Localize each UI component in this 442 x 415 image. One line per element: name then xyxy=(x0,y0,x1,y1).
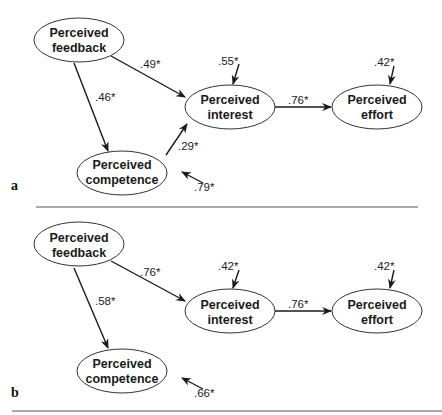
node-perceived-competence: Perceived competence xyxy=(77,151,167,195)
arrow-feedback-to-competence xyxy=(74,268,108,348)
node-perceived-effort: Perceived effort xyxy=(332,289,422,333)
coef-feedback-interest: .76* xyxy=(140,266,161,278)
node-label: Perceived xyxy=(92,357,151,371)
node-label: Perceived xyxy=(347,298,406,312)
node-label: effort xyxy=(361,108,394,122)
residual-interest: .42* xyxy=(218,260,239,272)
node-label: competence xyxy=(86,173,159,187)
residual-competence: .79* xyxy=(194,181,215,193)
residual-arrow-effort xyxy=(390,270,394,288)
node-label: Perceived xyxy=(49,231,108,245)
node-perceived-feedback: Perceived feedback xyxy=(34,18,124,62)
node-label: interest xyxy=(207,108,253,122)
node-label: Perceived xyxy=(200,93,259,107)
residual-arrow-effort xyxy=(390,66,394,84)
residual-effort: .42* xyxy=(374,260,395,272)
panel-a: Perceived feedback Perceived interest Pe… xyxy=(11,18,422,195)
node-perceived-effort: Perceived effort xyxy=(332,85,422,129)
node-label: Perceived xyxy=(49,26,108,40)
node-label: competence xyxy=(86,372,159,386)
coef-feedback-competence: .46* xyxy=(95,91,116,103)
node-perceived-interest: Perceived interest xyxy=(185,85,275,129)
coef-competence-interest: .29* xyxy=(178,140,199,152)
coef-interest-effort: .76* xyxy=(288,94,309,106)
arrow-feedback-to-competence xyxy=(74,63,108,151)
node-label: effort xyxy=(361,313,394,327)
path-diagram-figure: Perceived feedback Perceived interest Pe… xyxy=(0,0,442,415)
panel-label-a: a xyxy=(11,178,18,193)
coef-feedback-competence: .58* xyxy=(95,295,116,307)
residual-interest: .55* xyxy=(218,55,239,67)
coef-interest-effort: .76* xyxy=(288,298,309,310)
panel-b: Perceived feedback Perceived interest Pe… xyxy=(11,222,422,400)
node-perceived-feedback: Perceived feedback xyxy=(34,222,124,266)
node-label: Perceived xyxy=(347,93,406,107)
residual-effort: .42* xyxy=(374,56,395,68)
node-label: Perceived xyxy=(200,298,259,312)
node-label: feedback xyxy=(52,41,106,55)
node-perceived-interest: Perceived interest xyxy=(185,289,275,333)
node-label: feedback xyxy=(52,246,106,260)
panel-label-b: b xyxy=(11,385,19,400)
node-perceived-competence: Perceived competence xyxy=(77,349,167,393)
residual-arrow-interest xyxy=(233,270,239,288)
node-label: interest xyxy=(207,313,253,327)
residual-competence: .66* xyxy=(194,387,215,399)
node-label: Perceived xyxy=(92,158,151,172)
residual-arrow-interest xyxy=(233,64,239,84)
coef-feedback-interest: .49* xyxy=(140,58,161,70)
